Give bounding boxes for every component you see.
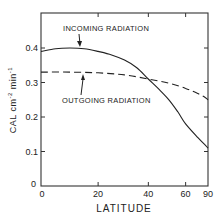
x-axis-label: LATITUDE [96, 203, 152, 214]
x-tick-label: 40 [143, 189, 153, 199]
y-tick-label: 0.1 [25, 147, 38, 157]
y-tick-label: 0 [31, 179, 36, 189]
outgoing-radiation-label: OUTGOING RADIATION [62, 96, 151, 105]
y-tick-label: 0.3 [25, 78, 38, 88]
x-tick-label: 20 [93, 189, 103, 199]
x-tick-label: 60 [181, 189, 191, 199]
annotations: INCOMING RADIATIONOUTGOING RADIATION [62, 24, 151, 105]
y-tick-label: 0.2 [25, 112, 38, 122]
radiation-latitude-chart: 02040609000.10.20.30.4 INCOMING RADIATIO… [0, 0, 222, 219]
y-axis-label: CAL cm-2 min-1 [7, 67, 18, 134]
y-tick-label: 0.4 [25, 43, 38, 53]
x-tick-label: 0 [39, 189, 44, 199]
axis-ticks: 02040609000.10.20.30.4 [25, 13, 213, 199]
outgoing-arrowhead-icon [81, 74, 85, 80]
x-tick-label: 90 [203, 189, 213, 199]
incoming-arrowhead-icon [77, 41, 82, 47]
svg-text:CAL cm-2 min-1: CAL cm-2 min-1 [7, 67, 18, 134]
incoming-radiation-label: INCOMING RADIATION [63, 24, 149, 33]
outgoing-arrow-icon [81, 79, 83, 95]
